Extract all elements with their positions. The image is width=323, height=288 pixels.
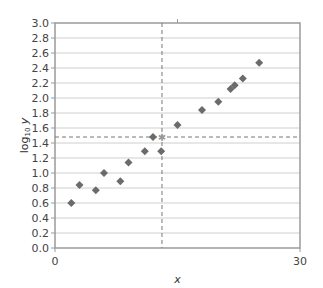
y-tick-label: 2.2 [32,77,50,90]
svg-text:log10 y: log10 y [18,117,32,153]
y-tick-label: 1.0 [32,167,50,180]
scatter-chart: 0.00.20.40.60.81.01.21.41.61.82.02.22.42… [0,0,323,288]
x-tick-label: 30 [293,255,307,268]
diamond-marker [214,98,222,106]
y-axis-ticks: 0.00.20.40.60.81.01.21.41.61.82.02.22.42… [32,17,56,255]
diamond-marker [157,147,165,155]
diamond-marker [116,177,124,185]
diamond-marker [92,186,100,194]
y-tick-label: 3.0 [32,17,50,30]
diamond-marker [125,159,133,167]
y-tick-label: 1.8 [32,107,50,120]
y-tick-label: 2.8 [32,32,50,45]
crosshair-star-icon: ✱ [158,132,166,143]
x-axis-label: x [173,273,181,286]
y-tick-label: 0.2 [32,227,50,240]
plot-area [55,23,300,248]
diamond-marker [149,133,157,141]
diamond-marker [141,147,149,155]
y-tick-label: 1.4 [32,137,50,150]
crosshair-annotation: ✱ [55,23,300,248]
y-tick-label: 1.6 [32,122,50,135]
y-axis-label: log10 y [18,117,32,153]
y-tick-label: 2.4 [32,62,50,75]
y-tick-label: 2.6 [32,47,50,60]
diamond-marker [67,199,75,207]
diamond-marker [100,169,108,177]
y-tick-label: 2.0 [32,92,50,105]
y-tick-label: 0.4 [32,212,50,225]
diamond-marker [255,59,263,67]
y-tick-label: 0.6 [32,197,50,210]
grid-lines [55,38,300,233]
y-tick-label: 0.8 [32,182,50,195]
y-tick-label: 1.2 [32,152,50,165]
y-tick-label: 0.0 [32,242,50,255]
diamond-marker [239,75,247,83]
x-tick-label: 0 [52,255,59,268]
